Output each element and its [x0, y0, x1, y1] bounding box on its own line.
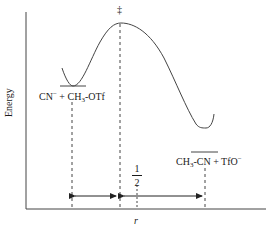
reactants-label: CN− + CH3-OTf — [39, 91, 105, 104]
y-axis-label: Energy — [3, 88, 14, 117]
fraction-numerator: 1 — [132, 163, 142, 176]
transition-state-marker: ‡ — [117, 4, 122, 15]
fraction-denominator: 2 — [132, 176, 142, 188]
energy-diagram: Energy r ‡ CN− + CH3-OTf CH3-CN + TfO− 1… — [0, 0, 276, 231]
x-axis-label: r — [134, 215, 138, 226]
products-label: CH3-CN + TfO− — [176, 156, 242, 169]
energy-curve — [62, 23, 214, 128]
half-fraction-label: 1 2 — [132, 163, 142, 188]
diagram-canvas — [0, 0, 276, 231]
